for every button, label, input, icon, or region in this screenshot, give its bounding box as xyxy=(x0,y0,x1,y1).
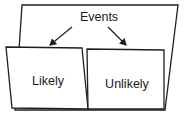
events-diagram: Events Likely Unlikely xyxy=(0,0,184,119)
events-label: Events xyxy=(80,10,118,24)
unlikely-label: Unlikely xyxy=(105,77,150,91)
likely-label: Likely xyxy=(32,74,65,88)
